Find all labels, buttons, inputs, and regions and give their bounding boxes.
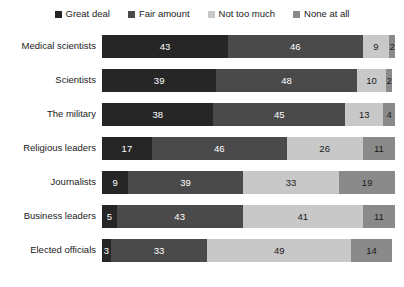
legend-item[interactable]: Fair amount [128,9,190,19]
bar-segment-value: 43 [160,42,171,52]
chart-row: Business leaders5434111 [0,203,404,237]
chart-row: Elected officials3334914 [0,237,404,271]
bar-segment-value: 11 [374,212,384,222]
bar-segment-value: 49 [274,246,285,256]
bar-segment[interactable]: 49 [207,239,351,262]
legend-item[interactable]: None at all [293,9,349,19]
bar-segment[interactable]: 4 [383,103,395,126]
bar-segment[interactable]: 2 [386,69,392,92]
bar-segment[interactable]: 5 [102,205,117,228]
bar-segment-value: 17 [122,144,133,154]
bar-segment[interactable]: 39 [128,171,242,194]
category-label: Religious leaders [0,135,96,161]
bar-segment-value: 11 [374,144,384,154]
category-label: The military [0,101,96,127]
bar-segment-value: 3 [104,246,109,256]
bar-segment[interactable]: 11 [363,205,395,228]
stacked-bar: 3334914 [102,239,395,262]
bar-segment[interactable]: 46 [152,137,287,160]
bar-segment-value: 9 [373,42,378,52]
bar-segment[interactable]: 11 [363,137,395,160]
stacked-bar-chart: Great dealFair amountNot too muchNone at… [0,0,404,287]
bar-segment[interactable]: 10 [357,69,386,92]
bar-segment-value: 2 [386,76,391,86]
legend-item-label: Fair amount [139,9,190,19]
chart-row: Scientists3948102 [0,67,404,101]
bar-segment[interactable]: 38 [102,103,213,126]
bar-segment[interactable]: 19 [339,171,395,194]
stacked-bar: 434692 [102,35,395,58]
category-label: Elected officials [0,237,96,263]
bar-segment-value: 14 [366,246,377,256]
bar-segment[interactable]: 48 [216,69,357,92]
bar-segment-value: 2 [389,42,394,52]
stacked-bar: 3948102 [102,69,395,92]
legend-swatch-icon [293,11,300,18]
bar-segment-value: 33 [286,178,297,188]
category-label: Journalists [0,169,96,195]
legend-item[interactable]: Not too much [208,9,276,19]
bar-segment-value: 5 [107,212,112,222]
legend-swatch-icon [208,11,215,18]
bar-segment[interactable]: 39 [102,69,216,92]
bar-segment[interactable]: 41 [243,205,363,228]
stacked-bar: 9393319 [102,171,395,194]
bar-segment-value: 46 [290,42,301,52]
bar-segment-value: 33 [154,246,165,256]
bar-segment[interactable]: 9 [102,171,128,194]
bar-segment-value: 10 [366,76,377,86]
bar-segment-value: 43 [174,212,185,222]
bar-segment[interactable]: 2 [389,35,395,58]
bar-segment-value: 19 [362,178,373,188]
chart-row: The military3845134 [0,101,404,135]
bar-segment-value: 46 [214,144,225,154]
bar-segment[interactable]: 13 [345,103,383,126]
category-label: Scientists [0,67,96,93]
bar-segment[interactable]: 43 [102,35,228,58]
bar-segment-value: 48 [281,76,292,86]
bar-segment[interactable]: 33 [243,171,340,194]
bar-segment-value: 38 [152,110,163,120]
bar-segment[interactable]: 9 [363,35,389,58]
bar-segment[interactable]: 46 [228,35,363,58]
stacked-bar: 17462611 [102,137,395,160]
bar-segment-value: 41 [297,212,308,222]
bar-segment-value: 45 [274,110,285,120]
bar-segment-value: 13 [359,110,370,120]
bar-segment[interactable]: 43 [117,205,243,228]
chart-row: Journalists9393319 [0,169,404,203]
category-label: Medical scientists [0,33,96,59]
bar-segment-value: 39 [154,76,165,86]
chart-row: Religious leaders17462611 [0,135,404,169]
bar-segment-value: 9 [113,178,118,188]
bar-segment-value: 39 [180,178,191,188]
legend-item[interactable]: Great deal [55,9,110,19]
bar-segment[interactable]: 33 [111,239,208,262]
bar-segment[interactable]: 26 [287,137,363,160]
stacked-bar: 3845134 [102,103,395,126]
bar-segment[interactable]: 14 [351,239,392,262]
bar-segment[interactable]: 3 [102,239,111,262]
chart-plot-area: Medical scientists434692Scientists394810… [0,33,404,283]
bar-segment-value: 26 [319,144,330,154]
category-label: Business leaders [0,203,96,229]
legend-item-label: None at all [304,9,349,19]
stacked-bar: 5434111 [102,205,395,228]
chart-row: Medical scientists434692 [0,33,404,67]
legend-item-label: Great deal [66,9,110,19]
bar-segment[interactable]: 17 [102,137,152,160]
chart-legend: Great dealFair amountNot too muchNone at… [0,6,404,22]
bar-segment-value: 4 [386,110,391,120]
legend-swatch-icon [55,11,62,18]
bar-segment[interactable]: 45 [213,103,345,126]
legend-item-label: Not too much [219,9,276,19]
legend-swatch-icon [128,11,135,18]
